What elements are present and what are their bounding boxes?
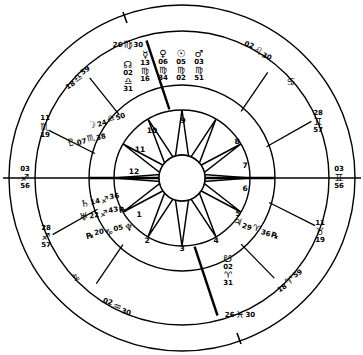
- planet-pluto: ♇ 07 ♏ 38: [66, 134, 106, 144]
- cancer-icon: ♋: [287, 76, 296, 87]
- uranus-icon: ♅: [79, 212, 90, 223]
- house-number-8: 8: [234, 138, 239, 146]
- planet-uranus: ♅ 22 ♐ 43 ℞: [79, 209, 127, 219]
- cusp-label-ascendant: 03 ♐ 56: [20, 166, 30, 190]
- cusp-label-house2: 28 ♐ 57: [41, 225, 51, 249]
- cusp-label-house8: 28 ♊ 57: [313, 110, 323, 134]
- planet-jupiter: ♃ 29 ♈ 36 ℞: [232, 223, 280, 233]
- planet-moon: ☽ 24 ♎ 50: [86, 115, 126, 125]
- neptune-icon: ♆: [124, 222, 135, 234]
- house-number-3: 3: [179, 245, 184, 253]
- house-number-7: 7: [242, 162, 247, 170]
- sagittarius-icon: ♐: [99, 209, 109, 219]
- planet-south-node: ☋ 02 ♈ 31: [223, 254, 233, 288]
- cusp-label-ic: 26 ♓ 30: [225, 310, 255, 320]
- sagittarius-icon: ♐: [100, 195, 110, 205]
- cusp-label-house12: 11 ♏ 19: [40, 115, 50, 139]
- center-hub: [159, 155, 205, 201]
- house-number-12: 12: [129, 168, 139, 176]
- retrograde-icon: ℞: [119, 206, 127, 215]
- house-number-2: 2: [144, 237, 149, 245]
- saturn-icon: ♄: [80, 198, 91, 209]
- natal-chart-wheel: 26 ♍ 30 18 ♎ 59 11 ♏ 19 03 ♐ 56 28 ♐: [0, 0, 363, 355]
- cusp-label-house9: 02 ♌ 30: [243, 46, 273, 56]
- cusp-label-mc: 26 ♍ 30: [113, 40, 143, 50]
- planet-mercury: ☿ 13 ♍ 16: [140, 50, 150, 84]
- house-number-9: 9: [180, 117, 185, 125]
- sign-mark-cancer: ♋: [287, 72, 296, 88]
- sign-mark-capricorn: ♑: [72, 268, 81, 284]
- cusp-label-house11: 18 ♎ 59: [63, 73, 93, 83]
- house-number-6: 6: [242, 185, 247, 193]
- house-number-11: 11: [135, 146, 145, 154]
- cusp-label-house6: 11 ♉ 19: [315, 220, 325, 244]
- house-number-5: 5: [235, 210, 240, 218]
- planet-sun: ☉ 05 ♍ 02: [176, 49, 186, 83]
- cusp-label-house5: 18 ♈ 59: [275, 276, 305, 286]
- planet-mars: ♂ 03 ♍ 51: [194, 49, 204, 83]
- capricorn-icon: ♑: [72, 272, 81, 283]
- planet-neptune: ℞ 20 ♑ 05 ♆: [86, 227, 134, 237]
- house-number-10: 10: [147, 127, 157, 135]
- planet-saturn: ♄ 14 ♐ 36: [80, 196, 120, 206]
- house-number-4: 4: [213, 237, 218, 245]
- cusp-label-house3: 02 ♒ 30: [102, 302, 132, 312]
- pisces-icon: ♓: [236, 310, 245, 320]
- house-number-1: 1: [136, 211, 141, 219]
- planet-venus: ♀ 06 ♍ 34: [158, 49, 168, 83]
- cusp-label-descendant: 03 ♊ 56: [334, 166, 344, 190]
- virgo-icon: ♍: [124, 40, 133, 50]
- planet-north-node: ☊ 02 ♎ 31: [123, 60, 133, 94]
